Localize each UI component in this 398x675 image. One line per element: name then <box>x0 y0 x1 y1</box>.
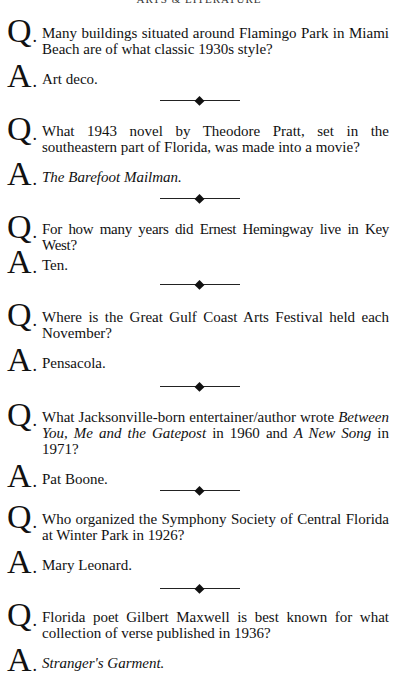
section-divider <box>160 486 240 496</box>
diamond-ornament-icon <box>195 96 205 106</box>
section-divider <box>160 194 240 204</box>
answer-label: A. <box>7 245 37 284</box>
question-text: Florida poet Gilbert Maxwell is best kno… <box>42 598 389 641</box>
qa-item: Q. Florida poet Gilbert Maxwell is best … <box>0 598 398 671</box>
qa-item: Q. What 1943 novel by Theodore Pratt, se… <box>0 112 398 185</box>
answer-title: Stranger's Garment. <box>42 655 164 671</box>
answer-row: A. Pensacola. <box>0 343 398 371</box>
answer-text: Mary Leonard. <box>42 545 389 573</box>
section-divider <box>160 280 240 290</box>
diamond-ornament-icon <box>195 194 205 204</box>
question-label: Q. <box>7 298 37 337</box>
question-text: Many buildings situated around Flamingo … <box>42 14 389 57</box>
question-text: What 1943 novel by Theodore Pratt, set i… <box>42 112 389 155</box>
qa-item: Q. Who organized the Symphony Society of… <box>0 500 398 573</box>
question-label: Q. <box>7 14 37 53</box>
question-label: Q. <box>7 112 37 151</box>
question-row: Q. What 1943 novel by Theodore Pratt, se… <box>0 112 398 155</box>
answer-text: Art deco. <box>42 59 389 87</box>
answer-row: A. The Barefoot Mailman. <box>0 157 398 185</box>
answer-label: A. <box>7 343 37 382</box>
answer-row: A. Ten. <box>0 245 398 273</box>
question-text: What Jacksonville-born entertainer/autho… <box>42 398 389 457</box>
section-divider <box>160 382 240 392</box>
question-row: Q. Who organized the Symphony Society of… <box>0 500 398 543</box>
section-divider <box>160 584 240 594</box>
book-title: A New Song <box>294 425 372 441</box>
answer-row: A. Pat Boone. <box>0 459 398 487</box>
answer-text: Pat Boone. <box>42 459 389 487</box>
section-divider <box>160 96 240 106</box>
qa-item: Q. Many buildings situated around Flamin… <box>0 14 398 87</box>
running-head: ARTS & LITERATURE <box>0 0 398 5</box>
answer-title: The Barefoot Mailman. <box>42 169 182 185</box>
answer-label: A. <box>7 59 37 98</box>
question-row: Q. What Jacksonville-born entertainer/au… <box>0 398 398 457</box>
qa-item: Q. For how many years did Ernest Hemingw… <box>0 210 398 273</box>
question-row: Q. Many buildings situated around Flamin… <box>0 14 398 57</box>
question-row: Q. Florida poet Gilbert Maxwell is best … <box>0 598 398 641</box>
answer-label: A. <box>7 545 37 584</box>
question-text: Who organized the Symphony Society of Ce… <box>42 500 389 543</box>
qa-item: Q. Where is the Great Gulf Coast Arts Fe… <box>0 298 398 371</box>
answer-text: Pensacola. <box>42 343 389 371</box>
answer-row: A. Mary Leonard. <box>0 545 398 573</box>
question-row: Q. Where is the Great Gulf Coast Arts Fe… <box>0 298 398 341</box>
qa-item: Q. What Jacksonville-born entertainer/au… <box>0 398 398 487</box>
answer-label: A. <box>7 157 37 196</box>
diamond-ornament-icon <box>195 382 205 392</box>
answer-row: A. Stranger's Garment. <box>0 643 398 671</box>
question-text: Where is the Great Gulf Coast Arts Festi… <box>42 298 389 341</box>
question-label: Q. <box>7 398 37 437</box>
diamond-ornament-icon <box>195 486 205 496</box>
answer-row: A. Art deco. <box>0 59 398 87</box>
answer-label: A. <box>7 459 37 498</box>
diamond-ornament-icon <box>195 280 205 290</box>
diamond-ornament-icon <box>195 584 205 594</box>
question-label: Q. <box>7 598 37 637</box>
question-label: Q. <box>7 500 37 539</box>
answer-text: Stranger's Garment. <box>42 643 389 671</box>
answer-label: A. <box>7 643 37 675</box>
answer-text: The Barefoot Mailman. <box>42 157 389 185</box>
answer-text: Ten. <box>42 245 389 273</box>
